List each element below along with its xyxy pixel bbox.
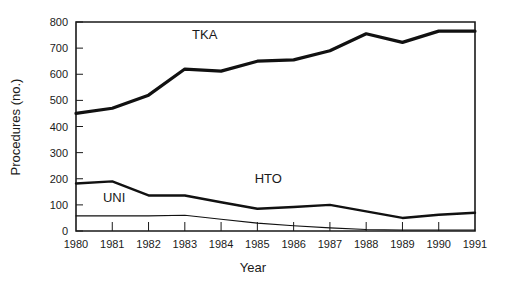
series-line-hto — [76, 181, 475, 218]
y-tick-label-300: 300 — [50, 147, 68, 159]
series-label-uni: UNI — [103, 190, 125, 205]
x-axis-tick-labels: 1980198119821983198419851986198719881989… — [64, 238, 487, 250]
series-line-tka — [76, 31, 475, 113]
y-axis-title: Procedures (no.) — [8, 79, 23, 176]
x-tick-label-1981: 1981 — [100, 238, 124, 250]
series-label-tka: TKA — [192, 27, 218, 42]
y-tick-label-800: 800 — [50, 16, 68, 28]
plot-frame — [76, 22, 475, 231]
x-tick-label-1990: 1990 — [426, 238, 450, 250]
series-label-hto: HTO — [255, 171, 282, 186]
line-chart-canvas: 0100200300400500600700800 19801981198219… — [0, 0, 506, 282]
y-tick-label-100: 100 — [50, 199, 68, 211]
chart-figure: 0100200300400500600700800 19801981198219… — [0, 0, 506, 282]
x-tick-label-1988: 1988 — [354, 238, 378, 250]
x-axis-title: Year — [240, 260, 267, 275]
x-tick-label-1989: 1989 — [390, 238, 414, 250]
x-tick-label-1991: 1991 — [463, 238, 487, 250]
x-tick-label-1982: 1982 — [136, 238, 160, 250]
y-tick-label-500: 500 — [50, 94, 68, 106]
y-tick-label-400: 400 — [50, 121, 68, 133]
x-tick-label-1985: 1985 — [245, 238, 269, 250]
y-axis-ticks — [76, 22, 83, 231]
x-tick-label-1987: 1987 — [318, 238, 342, 250]
y-tick-label-700: 700 — [50, 42, 68, 54]
x-tick-label-1986: 1986 — [281, 238, 305, 250]
y-tick-label-600: 600 — [50, 68, 68, 80]
x-tick-label-1983: 1983 — [173, 238, 197, 250]
x-tick-label-1984: 1984 — [209, 238, 233, 250]
data-series-group — [76, 31, 475, 230]
x-tick-label-1980: 1980 — [64, 238, 88, 250]
y-tick-label-200: 200 — [50, 173, 68, 185]
series-annotations: TKAHTOUNI — [103, 27, 282, 205]
y-tick-label-0: 0 — [62, 225, 68, 237]
y-axis-tick-labels: 0100200300400500600700800 — [50, 16, 68, 237]
